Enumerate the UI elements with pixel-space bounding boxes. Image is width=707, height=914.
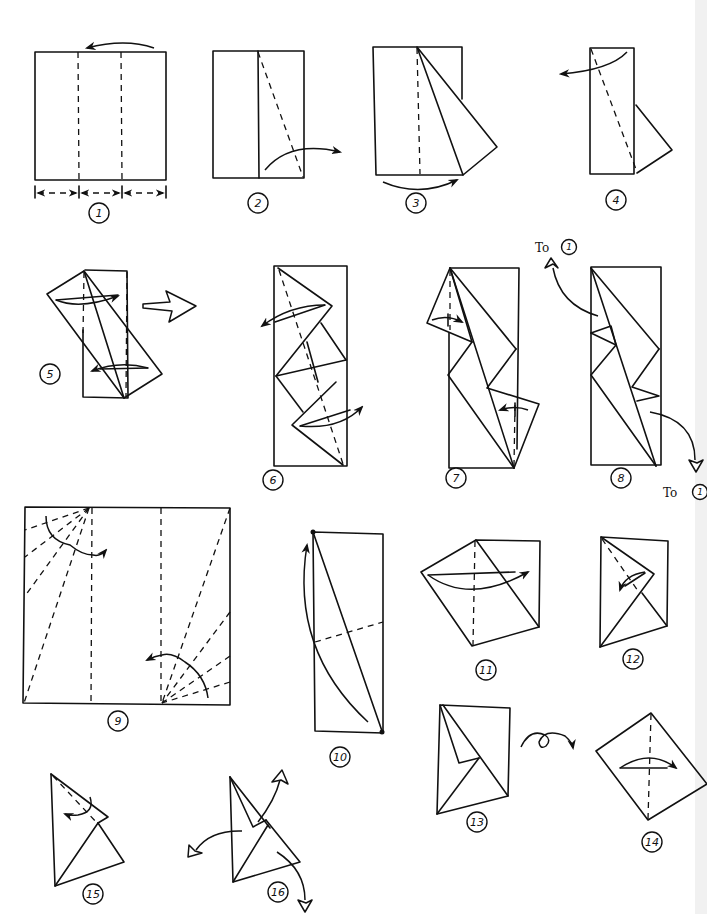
step-3-diagram: [373, 47, 497, 190]
turn-over-icon: [521, 733, 573, 748]
fold-arrow-icon: [65, 797, 91, 815]
step-number-badge: 6: [263, 470, 283, 490]
svg-text:8: 8: [618, 472, 625, 485]
fold-arrow-icon: [500, 408, 528, 411]
svg-text:11: 11: [479, 664, 493, 677]
curve-arrow: [196, 831, 242, 850]
svg-text:9: 9: [115, 715, 122, 728]
hollow-arrow-icon: [188, 845, 202, 857]
step-number-badge: 14: [642, 832, 662, 852]
step-9-diagram: [23, 507, 230, 705]
svg-text:1: 1: [566, 242, 572, 252]
step-number-badge: 13: [467, 812, 487, 832]
fan-fold-arrow-icon: [147, 654, 208, 698]
svg-text:2: 2: [255, 197, 262, 210]
step-number-badge: 1: [89, 203, 109, 223]
step-number-badge: 11: [476, 660, 496, 680]
svg-text:12: 12: [626, 653, 640, 666]
step-10-diagram: [304, 530, 385, 735]
svg-text:6: 6: [270, 474, 277, 487]
hollow-result-arrow-icon: [143, 291, 196, 322]
step-number-badge: 15: [83, 884, 103, 904]
step-number-badge: 2: [248, 193, 268, 213]
reference-dot: [311, 530, 316, 535]
cross-reference-bottom: To 1: [663, 485, 707, 501]
svg-text:3: 3: [413, 197, 420, 210]
svg-text:1: 1: [96, 207, 103, 220]
step-15-diagram: [51, 774, 124, 886]
reference-badge: 1: [693, 485, 707, 500]
hollow-arrow-icon: [298, 900, 312, 912]
step-5-diagram: [47, 270, 162, 398]
step-13-diagram: [437, 705, 573, 814]
svg-text:16: 16: [271, 886, 285, 899]
origami-diagram-sheet: 1 2 3 4: [0, 0, 707, 914]
fold-arrow-icon: [87, 43, 154, 48]
step-2-diagram: [213, 51, 340, 178]
svg-text:7: 7: [453, 472, 460, 485]
fold-arrow-icon: [383, 180, 457, 190]
svg-text:5: 5: [47, 368, 54, 381]
step-14-diagram: [596, 713, 707, 820]
svg-text:13: 13: [470, 816, 484, 829]
svg-text:15: 15: [86, 888, 100, 901]
reference-badge: 1: [562, 240, 577, 255]
hollow-arrow-icon: [545, 258, 558, 268]
step-number-badge: 4: [606, 190, 626, 210]
step-7-diagram: [427, 268, 539, 468]
step-6-diagram: [262, 266, 362, 466]
fold-arrow-icon: [432, 317, 462, 322]
step-8-diagram: [545, 258, 703, 472]
step-number-badge: 16: [268, 882, 288, 902]
step-number-badge: 3: [406, 193, 426, 213]
step-number-badge: 10: [330, 747, 350, 767]
svg-text:1: 1: [697, 487, 703, 497]
step-11-diagram: [421, 540, 540, 646]
step-4-diagram: [561, 48, 672, 174]
svg-text:To: To: [535, 241, 549, 255]
fold-arrow-icon: [620, 758, 676, 768]
fold-arrow-icon: [265, 149, 340, 170]
step-number-badge: 7: [446, 468, 466, 488]
reference-dot: [380, 730, 385, 735]
svg-text:To: To: [663, 486, 677, 500]
svg-text:14: 14: [645, 836, 659, 849]
cross-reference-top: To 1: [535, 240, 577, 256]
step-number-badge: 8: [611, 468, 631, 488]
svg-text:4: 4: [613, 194, 620, 207]
step-16-diagram: [188, 770, 312, 912]
fold-arrow-icon: [561, 52, 627, 74]
equal-division-marks: [35, 186, 166, 198]
step-number-badge: 5: [40, 364, 60, 384]
step-number-badge: 9: [108, 711, 128, 731]
step-12-diagram: [600, 537, 668, 647]
step-1-diagram: [35, 43, 166, 198]
curve-arrow: [650, 412, 695, 460]
svg-text:10: 10: [333, 751, 347, 764]
step-number-badge: 12: [623, 649, 643, 669]
fan-fold-arrow-icon: [46, 516, 106, 555]
